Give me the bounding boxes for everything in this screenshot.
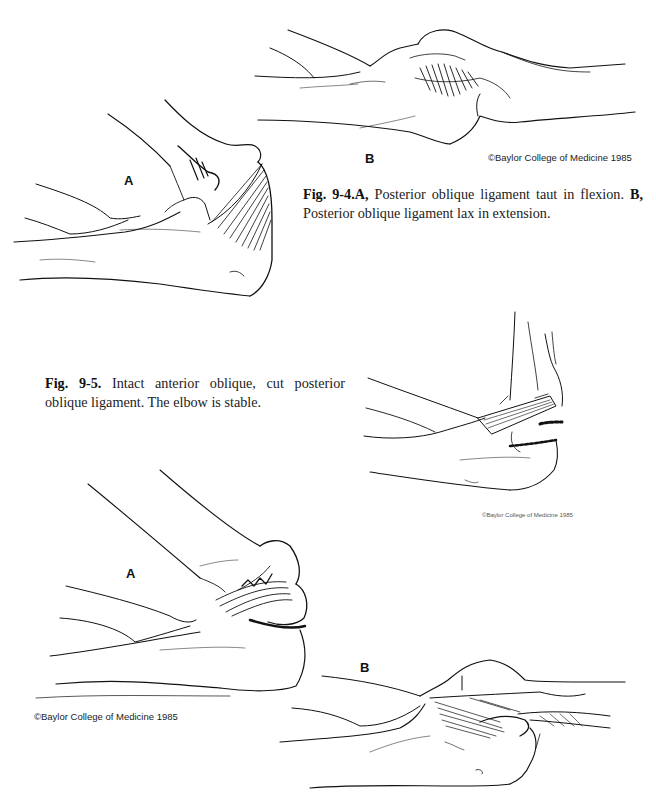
- figure-9-4-part-a-label: A,: [355, 186, 369, 202]
- figure-9-6a-panel-label: A: [126, 566, 135, 581]
- figure-9-4-number: Fig. 9-4.: [303, 186, 355, 202]
- figure-9-5-illustration: [360, 300, 656, 500]
- figure-9-4-part-b-text: Posterior oblique ligament lax in extens…: [303, 205, 550, 221]
- figure-9-5-copyright: ©Baylor College of Medicine 1985: [482, 512, 573, 518]
- figure-9-4-copyright: ©Baylor College of Medicine 1985: [488, 152, 632, 163]
- figure-9-6b-illustration: [280, 640, 656, 807]
- figure-9-4-caption: Fig. 9-4.A, Posterior oblique ligament t…: [303, 185, 643, 223]
- figure-9-5-caption: Fig. 9-5. Intact anterior oblique, cut p…: [45, 374, 345, 412]
- figure-9-4b-panel-label: B: [365, 151, 374, 166]
- figure-9-5-number: Fig. 9-5.: [45, 375, 101, 391]
- figure-9-4-part-a-text: Posterior oblique ligament taut in flexi…: [369, 186, 630, 202]
- figure-9-4a-panel-label: A: [124, 173, 133, 188]
- figure-9-4-part-b-label: B,: [630, 186, 643, 202]
- figure-9-4a-illustration: [0, 100, 300, 300]
- figure-9-4b-illustration: [240, 20, 656, 150]
- figure-9-6-copyright: ©Baylor College of Medicine 1985: [34, 711, 178, 722]
- figure-9-6b-panel-label: B: [360, 660, 369, 675]
